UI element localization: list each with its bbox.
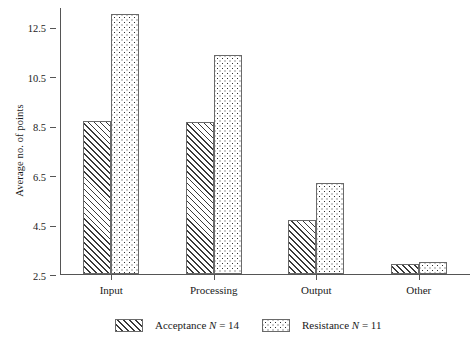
y-axis-tick: 10.5 [50, 77, 56, 78]
bar-acceptance-input [83, 121, 111, 274]
y-axis-tick: 12.5 [50, 28, 56, 29]
x-axis-tick [316, 274, 317, 280]
y-axis-tick-label: 6.5 [33, 171, 46, 182]
y-axis-tick-label: 4.5 [33, 221, 46, 232]
chart-legend: Acceptance N = 14Resistance N = 11 [0, 313, 474, 337]
x-axis-tick [214, 274, 215, 280]
bar-resistance-processing [214, 55, 242, 274]
y-axis-line [60, 8, 61, 275]
legend-label-acceptance: Acceptance N = 14 [155, 319, 239, 331]
plot-area: 2.54.56.58.510.512.5 InputProcessingOutp… [60, 8, 470, 275]
y-axis-tick: 8.5 [50, 127, 56, 128]
y-axis-tick: 6.5 [50, 176, 56, 177]
bar-resistance-output [316, 183, 344, 274]
legend-item-acceptance[interactable]: Acceptance N = 14 [115, 313, 239, 337]
bar-resistance-input [111, 14, 139, 274]
y-axis-title: Average no. of points [14, 66, 25, 236]
y-axis-tick: 4.5 [50, 226, 56, 227]
y-axis-tick: 2.5 [50, 275, 56, 276]
legend-item-resistance[interactable]: Resistance N = 11 [262, 313, 381, 337]
y-axis-tick-label: 8.5 [33, 122, 46, 133]
x-axis-tick-label: Input [100, 284, 123, 296]
x-axis-tick-label: Processing [190, 284, 238, 296]
bar-chart-figure: Average no. of points 2.54.56.58.510.512… [0, 0, 474, 348]
bar-acceptance-other [391, 264, 419, 274]
x-axis-tick [111, 274, 112, 280]
x-axis-tick [419, 274, 420, 280]
x-axis-tick-label: Other [406, 284, 431, 296]
x-axis-line [60, 274, 470, 275]
y-axis-tick-label: 10.5 [28, 72, 46, 83]
bar-resistance-other [419, 262, 447, 274]
legend-label-resistance: Resistance N = 11 [302, 319, 381, 331]
x-axis-tick-label: Output [301, 284, 332, 296]
y-axis-tick-label: 2.5 [33, 270, 46, 281]
bar-acceptance-processing [186, 122, 214, 274]
bar-acceptance-output [288, 220, 316, 274]
legend-swatch-acceptance [115, 319, 143, 332]
legend-swatch-resistance [262, 319, 290, 332]
y-axis-tick-label: 12.5 [28, 23, 46, 34]
